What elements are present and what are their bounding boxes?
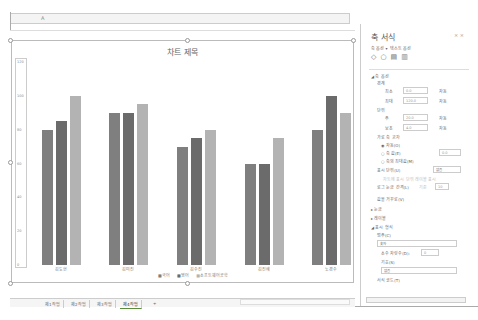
tab-text-options[interactable]: 텍스트 옵션: [390, 46, 411, 51]
panel-icon-row: ◇○▤▥: [371, 53, 412, 61]
bar-영어[interactable]: [326, 96, 337, 265]
max-auto-button[interactable]: 자동: [439, 98, 447, 104]
category-label: 김진혜: [244, 266, 284, 272]
display-units-select[interactable]: 없음: [433, 166, 461, 173]
chart-legend[interactable]: ■국어 ■영어 ■소프트웨어공학: [158, 272, 234, 278]
major-input[interactable]: 20.0: [403, 114, 428, 121]
chart-resize-handle[interactable]: [8, 160, 13, 165]
category-label: 노경수: [311, 266, 351, 272]
bar-영어[interactable]: [123, 113, 134, 265]
max-label: 최대: [385, 98, 393, 104]
category-label: 김도현: [41, 266, 81, 272]
cross-label: 가로 축 교차: [377, 134, 400, 140]
bar-국어[interactable]: [312, 130, 323, 265]
bar-소프트웨어공학[interactable]: [205, 130, 216, 265]
panel-scroll-area: ◢ 축 옵션 경계 최소 0.0 자동 최대 120.0 자동 단위 주 20.…: [369, 69, 469, 304]
symbol-label: 기호(S): [381, 259, 395, 265]
bar-국어[interactable]: [109, 113, 120, 265]
axis-tick-label: 20: [17, 229, 21, 233]
decimal-label: 소수 자릿수(D):: [381, 250, 410, 256]
sheet-tab-4[interactable]: 제4작업: [120, 300, 142, 309]
horizontal-scrollbar[interactable]: [240, 299, 350, 305]
panel-title: 축 서식: [371, 31, 395, 42]
axis-tick-label: 80: [17, 128, 21, 132]
chart-resize-handle[interactable]: [8, 38, 13, 43]
bar-소프트웨어공학[interactable]: [340, 113, 351, 265]
category-select[interactable]: 숫자: [377, 240, 457, 247]
close-icon[interactable]: × ×: [454, 32, 464, 38]
sheet-tab-3[interactable]: 제3작업: [94, 300, 116, 308]
category-label: 김미진: [108, 266, 148, 272]
symbol-select[interactable]: 없음: [381, 267, 457, 274]
minor-input[interactable]: 4.0: [403, 124, 428, 131]
axis-tick-label: 40: [17, 195, 21, 199]
chart-title[interactable]: 차트 제목: [12, 46, 353, 57]
legend-entry: ■영어: [177, 273, 192, 278]
bar-소프트웨어공학[interactable]: [70, 96, 81, 265]
max-input[interactable]: 120.0: [403, 97, 428, 104]
format-axis-panel: 축 서식 × × 축 옵션 ▾ 텍스트 옵션 ◇○▤▥ ◢ 축 옵션 경계 최소…: [360, 24, 470, 306]
bar-소프트웨어공학[interactable]: [137, 104, 148, 265]
log-scale-checkbox[interactable]: 로그 눈금 간격(L): [377, 184, 409, 190]
panel-tabs: 축 옵션 ▾ 텍스트 옵션: [371, 45, 411, 51]
size-icon[interactable]: ▤: [391, 53, 402, 61]
add-sheet-button[interactable]: +: [150, 300, 159, 307]
bounds-label: 경계: [377, 80, 385, 86]
cross-value-radio[interactable]: ○ 축 값(E): [381, 150, 401, 156]
section-tick-marks[interactable]: ▸ 눈금: [371, 206, 382, 212]
legend-entry: ■소프트웨어공학: [196, 273, 231, 278]
tab-axis-options[interactable]: 축 옵션 ▾: [371, 46, 388, 51]
panel-horizontal-scrollbar[interactable]: [366, 297, 466, 303]
axis-tick-label: 120: [17, 60, 24, 64]
major-auto-button[interactable]: 자동: [439, 115, 447, 121]
log-base-input[interactable]: 10: [435, 183, 449, 190]
show-units-checkbox[interactable]: 차트에 표시 단위 레이블 표시: [383, 176, 436, 182]
bar-소프트웨어공학[interactable]: [273, 138, 284, 265]
cross-auto-radio[interactable]: ◉ 자동(O): [381, 142, 400, 148]
major-label: 주: [385, 115, 389, 121]
chart-resize-handle[interactable]: [351, 38, 356, 43]
bar-영어[interactable]: [56, 121, 67, 265]
reverse-values-checkbox[interactable]: 값을 거꾸로(V): [377, 196, 404, 202]
axis-options-icon[interactable]: ▥: [401, 53, 412, 61]
effects-icon[interactable]: ○: [380, 53, 390, 61]
chart-resize-handle[interactable]: [185, 38, 190, 43]
decimal-input[interactable]: 0: [421, 249, 439, 256]
display-units-label: 표시 단위(U): [377, 167, 400, 173]
minor-label: 보조: [385, 125, 393, 131]
bar-국어[interactable]: [245, 164, 256, 266]
sheet-tab-1[interactable]: 제1작업: [42, 300, 64, 308]
format-code-label: 서식 코드(T): [377, 277, 400, 283]
units-label: 단위: [377, 107, 385, 113]
bar-영어[interactable]: [191, 138, 202, 265]
section-number[interactable]: ◢ 표시 형식: [371, 224, 393, 230]
chart-resize-handle[interactable]: [8, 281, 13, 286]
axis-tick-label: 60: [17, 162, 21, 166]
category-label: 범주(C): [377, 232, 391, 238]
axis-tick-label: 100: [17, 94, 24, 98]
sheet-tab-2[interactable]: 제2작업: [68, 300, 90, 308]
bar-국어[interactable]: [177, 147, 188, 265]
bar-국어[interactable]: [42, 130, 53, 265]
log-base-label: 기준: [419, 184, 427, 190]
min-auto-button[interactable]: 자동: [439, 88, 447, 94]
bar-영어[interactable]: [259, 164, 270, 266]
chart-resize-handle[interactable]: [185, 281, 190, 286]
legend-entry: ■국어: [158, 273, 173, 278]
min-label: 최소: [385, 88, 393, 94]
ribbon-strip: [0, 0, 478, 12]
cross-value-input[interactable]: 0.0: [439, 149, 461, 156]
cross-max-radio[interactable]: ○ 축의 최대값(M): [381, 158, 414, 164]
min-input[interactable]: 0.0: [403, 87, 428, 94]
section-axis-options[interactable]: ◢ 축 옵션: [371, 73, 389, 79]
section-labels[interactable]: ▸ 레이블: [371, 215, 386, 221]
fill-icon[interactable]: ◇: [371, 53, 380, 61]
minor-auto-button[interactable]: 자동: [439, 125, 447, 131]
axis-tick-label: 0: [17, 263, 19, 267]
